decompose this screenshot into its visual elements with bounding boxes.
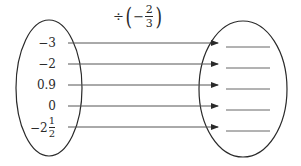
mixed-fraction: 1 2 [49,116,55,139]
operation-label: ÷ ( − 2 3 ) [113,4,164,29]
arrows [68,43,218,127]
input-value-3: 0.9 [26,78,56,92]
mixed-whole: −2 [30,121,48,135]
input-value-2: −2 [26,57,56,71]
input-value-5: −2 1 2 [30,116,56,139]
divisor-numerator: 2 [146,4,153,15]
mixed-numerator: 1 [49,116,55,126]
divisor-fraction: 2 3 [145,4,153,29]
divisor-denominator: 3 [146,18,153,29]
close-paren: ) [156,5,163,29]
input-value-4: 0 [26,99,56,113]
negative-sign: − [133,9,144,24]
divide-symbol: ÷ [113,9,124,24]
open-paren: ( [125,5,132,29]
mixed-denominator: 2 [49,129,55,139]
answer-blanks[interactable] [226,47,270,131]
input-value-1: −3 [26,36,56,50]
